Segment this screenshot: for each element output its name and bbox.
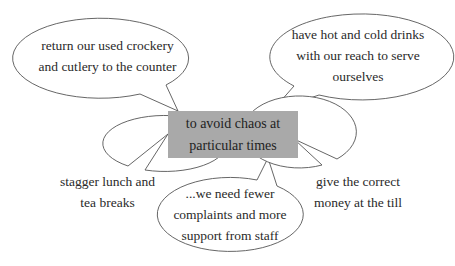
bubble-line: ...we need fewer [157,183,303,204]
bubble-bottom-right-text: give the correct money at the till [301,171,415,213]
center-line-1: to avoid chaos at [168,113,298,135]
bubble-bottom-left-text: stagger lunch and tea breaks [45,171,170,213]
center-text: to avoid chaos at particular times [168,113,298,157]
bubble-line: with our reach to serve [266,45,450,66]
bubble-line: give the correct [301,171,415,192]
bubble-line: return our used crockery [20,35,195,56]
bubble-line: tea breaks [45,192,170,213]
bubble-top-left-text: return our used crockery and cutlery to … [20,35,195,77]
diagram-canvas: to avoid chaos at particular times retur… [0,0,455,266]
bubble-line: stagger lunch and [45,171,170,192]
bubble-line: money at the till [301,192,415,213]
bubble-line: ourselves [266,66,450,87]
bubble-line: and cutlery to the counter [20,56,195,77]
bubble-line: support from staff [157,225,303,246]
center-line-2: particular times [168,135,298,157]
bubble-line: have hot and cold drinks [266,24,450,45]
bubble-line: complaints and more [157,204,303,225]
bubble-top-right-text: have hot and cold drinks with our reach … [266,24,450,87]
bubble-bottom-middle-text: ...we need fewer complaints and more sup… [157,183,303,246]
